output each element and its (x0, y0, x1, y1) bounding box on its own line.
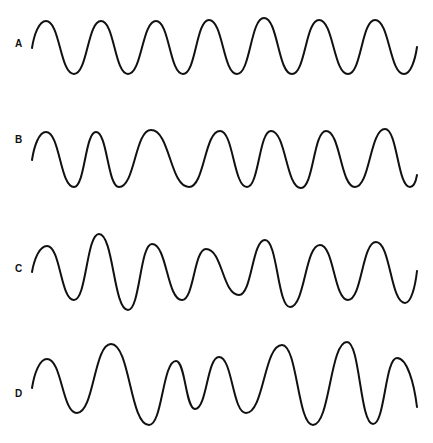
wave-d-path (32, 342, 417, 425)
wave-c-label: C (15, 264, 22, 274)
wave-a-label: A (15, 39, 22, 49)
wave-b-label: B (15, 135, 22, 145)
wave-a-path (32, 18, 417, 74)
wave-c-path (32, 234, 417, 310)
waveform-figure (0, 0, 433, 443)
wave-b-path (32, 129, 417, 188)
wave-d-label: D (15, 389, 22, 399)
